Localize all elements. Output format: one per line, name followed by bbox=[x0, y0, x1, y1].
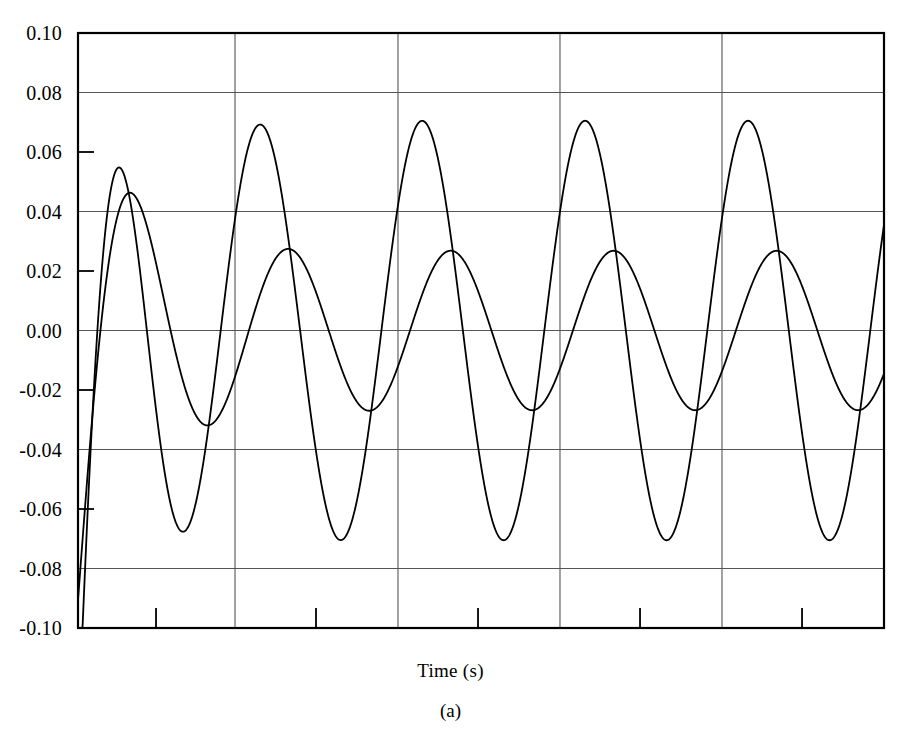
y-axis-tick-label: -0.04 bbox=[19, 440, 62, 460]
data-series-group bbox=[78, 121, 884, 628]
figure-container: -0.10-0.08-0.06-0.04-0.020.000.020.040.0… bbox=[0, 0, 901, 755]
series-line-small-amplitude bbox=[78, 193, 884, 600]
y-axis-tick-label: -0.08 bbox=[19, 559, 62, 579]
chart-plot-area bbox=[0, 0, 901, 755]
y-axis-tick-label: 0.00 bbox=[26, 321, 62, 341]
subfigure-caption: (a) bbox=[0, 700, 901, 722]
y-axis-tick-label: -0.06 bbox=[19, 499, 62, 519]
y-axis-tick-label: 0.04 bbox=[26, 202, 62, 222]
y-axis-tick-label: 0.06 bbox=[26, 142, 62, 162]
y-axis-tick-label: 0.02 bbox=[26, 261, 62, 281]
y-axis-labels: -0.10-0.08-0.06-0.04-0.020.000.020.040.0… bbox=[0, 0, 72, 755]
y-axis-tick-label: 0.08 bbox=[26, 83, 62, 103]
y-axis-tick-label: 0.10 bbox=[26, 23, 62, 43]
series-line-large-amplitude bbox=[78, 121, 884, 628]
horizontal-gridlines bbox=[78, 93, 884, 569]
x-axis-title: Time (s) bbox=[0, 660, 901, 682]
y-axis-tick-label: -0.02 bbox=[19, 380, 62, 400]
x-axis-tick-marks bbox=[156, 608, 802, 628]
series-clip-group bbox=[78, 121, 884, 628]
y-axis-tick-label: -0.10 bbox=[19, 618, 62, 638]
